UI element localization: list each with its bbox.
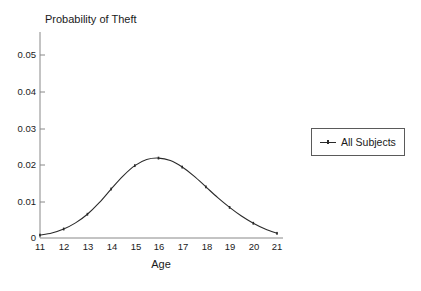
data-point-marker: [253, 222, 255, 225]
data-point-marker: [110, 188, 112, 191]
data-point-marker: [229, 206, 231, 209]
data-point-marker: [134, 164, 136, 167]
data-point-marker: [63, 228, 65, 231]
data-point-marker: [158, 157, 160, 160]
legend-entry: All Subjects: [312, 129, 404, 155]
data-point-marker: [39, 234, 41, 237]
data-series-all-subjects: [39, 157, 278, 237]
chart-figure: Probability of Theft Age 0.05 0.04 0.03 …: [0, 0, 421, 291]
legend-entry-label: All Subjects: [341, 136, 396, 148]
y-axis: [40, 32, 45, 238]
data-point-marker: [181, 166, 183, 169]
data-point-marker: [276, 232, 278, 235]
data-point-marker: [205, 185, 207, 188]
legend-line-marker-icon: [320, 137, 336, 147]
data-point-marker: [87, 213, 89, 216]
chart-legend: All Subjects: [311, 128, 405, 156]
